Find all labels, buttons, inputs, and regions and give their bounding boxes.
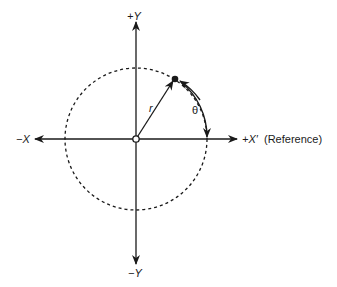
label-pos-x: +X′ [242, 133, 259, 145]
origin-point [133, 136, 139, 142]
label-pos-y: +Y [127, 10, 141, 22]
label-neg-y: −Y [128, 267, 142, 279]
radius-vector [136, 81, 173, 139]
label-neg-x: −X [16, 133, 30, 145]
polar-diagram: +Y −Y −X +X′ (Reference) r θ [0, 0, 337, 287]
point-on-circle [172, 76, 179, 83]
label-reference: (Reference) [264, 133, 322, 145]
label-theta: θ [192, 104, 198, 116]
